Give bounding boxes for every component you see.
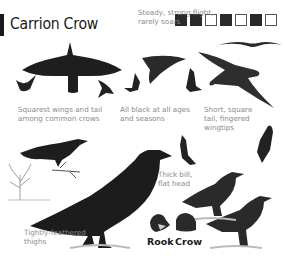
- flying-crow-large: [198, 52, 274, 108]
- crow-head-illustration: [176, 213, 196, 232]
- ground-shadow-right-2: [210, 246, 262, 248]
- branch: [52, 162, 80, 178]
- crow-label: Crow: [175, 236, 202, 247]
- caption-flight: Steady, strong flight, rarely soars: [138, 8, 214, 26]
- small-crow-flying-2: [98, 80, 114, 98]
- rook-label: Rook: [147, 236, 174, 247]
- caption-bill: Thick bill, flat head: [158, 170, 192, 188]
- field-guide-page: Carrion Crow: [0, 0, 285, 259]
- caption-tail: Short, square tail, fingered wingtips: [204, 105, 252, 132]
- small-crow-vertical: [186, 68, 202, 92]
- flying-crow-vertical-1: [180, 135, 196, 165]
- ground-shadow-right-1: [190, 218, 236, 220]
- bare-tree: [8, 164, 50, 200]
- flying-crow-side: [142, 56, 186, 84]
- caption-black: All black at all ages and seasons: [120, 105, 190, 123]
- caption-wings: Squarest wings and tail among common cro…: [18, 105, 102, 123]
- caption-thighs: Tightly-feathered thighs: [24, 228, 86, 246]
- small-crow-flying-1: [16, 75, 36, 91]
- distant-crow-silhouette: [218, 42, 282, 47]
- small-crow-flying-3: [124, 73, 140, 92]
- flying-crow-vertical-2: [257, 126, 273, 163]
- perched-crow-branch: [20, 139, 88, 167]
